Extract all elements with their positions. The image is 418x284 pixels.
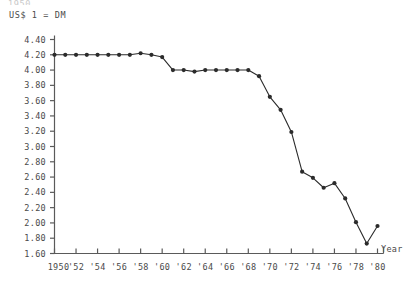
y-tick-label: 1.60: [8, 249, 46, 259]
series-markers: [52, 51, 379, 245]
data-point: [85, 53, 89, 57]
data-point: [139, 51, 143, 55]
series-line: [55, 53, 378, 243]
axes: [51, 36, 384, 254]
data-point: [106, 53, 110, 57]
y-tick-label: 2.40: [8, 187, 46, 197]
data-point: [192, 70, 196, 74]
data-point: [128, 53, 132, 57]
y-tick-label: 2.20: [8, 203, 46, 213]
data-point: [63, 53, 67, 57]
y-tick-label: 4.20: [8, 50, 46, 60]
data-point: [160, 55, 164, 59]
data-point: [246, 68, 250, 72]
y-tick-label: 3.20: [8, 126, 46, 136]
data-point: [52, 53, 56, 57]
data-point: [354, 220, 358, 224]
y-tick-label: 2.60: [8, 172, 46, 182]
data-point: [289, 130, 293, 134]
tick-marks: [50, 40, 378, 254]
data-point: [375, 224, 379, 228]
y-tick-label: 4.00: [8, 65, 46, 75]
data-point: [182, 68, 186, 72]
data-point: [117, 53, 121, 57]
data-point: [311, 176, 315, 180]
data-point: [95, 53, 99, 57]
data-point: [322, 186, 326, 190]
data-point: [300, 170, 304, 174]
plot-area: [0, 0, 418, 284]
data-point: [343, 196, 347, 200]
data-point: [279, 108, 283, 112]
data-point: [74, 53, 78, 57]
y-tick-label: 4.40: [8, 35, 46, 45]
data-point: [332, 181, 336, 185]
data-point: [214, 68, 218, 72]
data-point: [171, 68, 175, 72]
y-tick-label: 2.00: [8, 218, 46, 228]
y-tick-label: 3.00: [8, 142, 46, 152]
x-tick-label: '80: [363, 262, 393, 272]
y-tick-label: 3.60: [8, 96, 46, 106]
data-point: [257, 74, 261, 78]
data-point: [268, 95, 272, 99]
data-point: [235, 68, 239, 72]
y-tick-label: 3.80: [8, 80, 46, 90]
exchange-rate-chart: 1950 US$ 1 = DM Year 4.404.204.003.803.6…: [0, 0, 418, 284]
y-tick-label: 1.80: [8, 233, 46, 243]
data-point: [149, 53, 153, 57]
data-point: [203, 68, 207, 72]
y-tick-label: 2.80: [8, 157, 46, 167]
data-point: [225, 68, 229, 72]
data-point: [365, 241, 369, 245]
y-tick-label: 3.40: [8, 111, 46, 121]
